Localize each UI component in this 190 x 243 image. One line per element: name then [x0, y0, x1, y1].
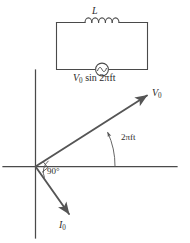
angle-label-2pift: 2πft	[121, 133, 136, 142]
inductor-coil-1	[85, 18, 92, 23]
current-phasor-label-subscript: 0	[62, 224, 66, 232]
inductor-icon	[85, 18, 119, 23]
inductor-phasor-figure: L V0 sin 2πft V0 2πft 90° I0	[0, 0, 190, 243]
inductor-coil-5	[112, 18, 119, 23]
figure-canvas	[0, 0, 190, 243]
angle-arc-2pift	[108, 132, 115, 166]
voltage-phasor-label-subscript: 0	[158, 92, 162, 100]
voltage-phasor-arrow	[36, 96, 148, 167]
inductor-coil-3	[99, 18, 106, 23]
inductor-coil-4	[105, 18, 112, 23]
ac-source-label-expression: sin 2πft	[83, 72, 116, 83]
current-phasor-label: I0	[59, 220, 66, 232]
circuit-loop	[57, 23, 148, 70]
voltage-phasor-label: V0	[152, 88, 162, 100]
inductor-coil-2	[92, 18, 99, 23]
right-angle-label: 90°	[47, 167, 60, 176]
phasor-axes	[3, 70, 177, 238]
ac-source-label: V0 sin 2πft	[73, 73, 116, 85]
inductor-label: L	[92, 6, 98, 16]
